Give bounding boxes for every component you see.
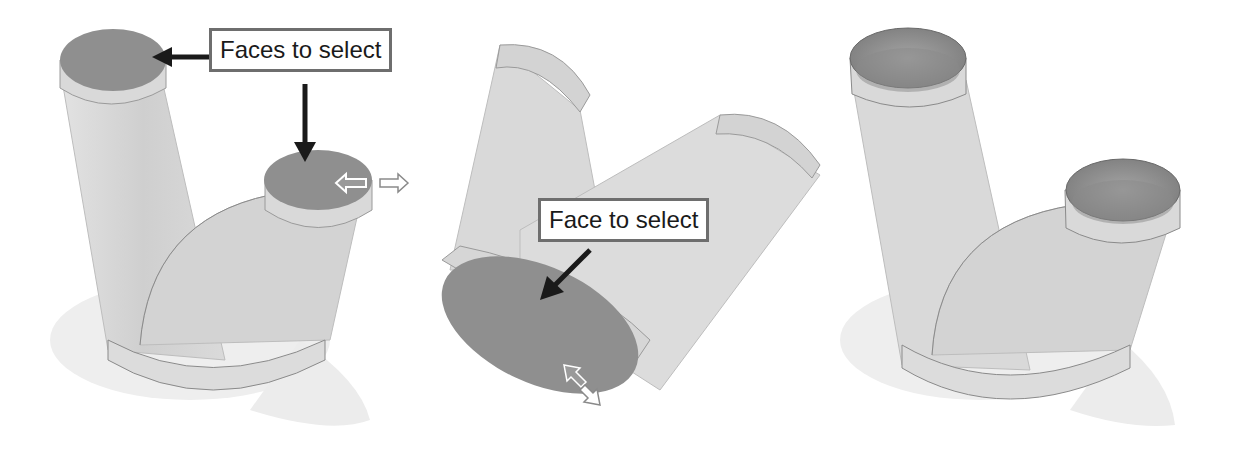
panel-face-to-select: Face to select <box>420 0 830 454</box>
panel-faces-to-select: Faces to select <box>0 0 420 454</box>
top-left-opening-face[interactable] <box>60 29 166 91</box>
pipe-y-fitting-hollow-model <box>830 0 1240 454</box>
callout-face-to-select: Face to select <box>538 198 709 242</box>
callout-faces-to-select: Faces to select <box>209 28 392 72</box>
panel-result-hollow <box>830 0 1240 454</box>
